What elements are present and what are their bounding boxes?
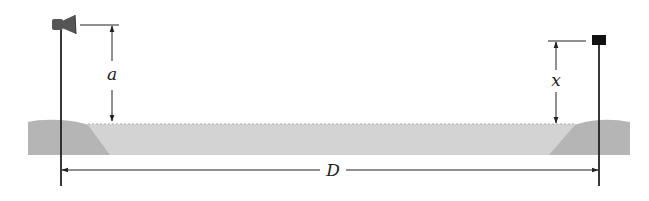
dimension-x: x — [548, 41, 586, 123]
ground-band — [28, 120, 630, 155]
dimension-a: a — [80, 25, 119, 121]
source-pole — [52, 15, 76, 186]
receiver-icon — [592, 35, 606, 45]
dimension-d: D — [62, 160, 598, 180]
sound-path-diagram: a x D — [0, 0, 649, 201]
speaker-icon — [52, 15, 76, 34]
water-surface — [28, 124, 630, 155]
d-label: D — [325, 160, 340, 180]
x-label: x — [551, 70, 561, 90]
a-label: a — [107, 64, 117, 84]
receiver-pole — [592, 35, 606, 186]
